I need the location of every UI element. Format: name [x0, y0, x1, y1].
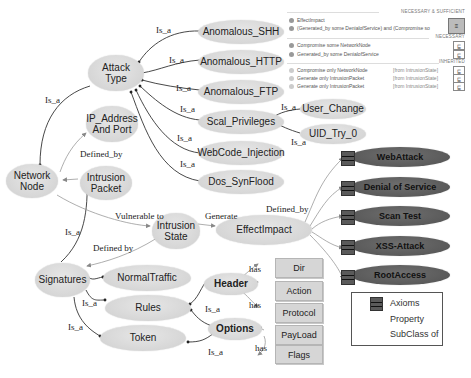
node-user-change[interactable]: User_Change [300, 99, 366, 119]
edge-label-is-a: Is_a [208, 347, 223, 357]
subclass-button[interactable]: ⊑ [453, 41, 465, 50]
edge-label-is-a: Is_a [180, 159, 195, 169]
node-signatures[interactable]: Signatures [35, 263, 90, 297]
edge-label-has: has [249, 300, 261, 310]
subclass-button[interactable]: ⊑ [453, 50, 465, 59]
divider [287, 63, 439, 64]
node-anomalous-ftp[interactable]: Anomalous_FTP [198, 80, 284, 104]
legend-property-label: Property [390, 314, 424, 324]
node-network-node[interactable]: Network Node [6, 164, 58, 198]
node-action[interactable]: Action [275, 281, 323, 301]
node-dos-synflood[interactable]: Dos_SynFlood [198, 170, 284, 194]
axiom-bullet-icon [289, 18, 294, 23]
edge-label-is-a: Is_a [205, 304, 220, 314]
node-denial-of-service[interactable]: Denial of Service [350, 177, 450, 197]
edge-label-is-a: Is_a [291, 137, 306, 147]
legend-subclass-label: SubClass of [390, 329, 439, 339]
node-token[interactable]: Token [100, 325, 186, 351]
legend-axioms-label: Axioms [390, 298, 420, 308]
equivalent-class-button[interactable]: ≡ [448, 18, 465, 34]
node-scan-test[interactable]: Scan Test [350, 206, 450, 226]
axioms-legend-icon [370, 297, 383, 311]
edge-label-is-a: Is_a [156, 25, 171, 35]
node-flags[interactable]: Flags [275, 345, 323, 364]
axiom-row[interactable]: EffectImpact [289, 17, 325, 23]
node-web-attack[interactable]: WebAttack [350, 147, 450, 167]
axiom-icon [341, 151, 355, 166]
node-webcode-injection[interactable]: WebCode_Injection [198, 141, 284, 165]
node-anomalous-shh[interactable]: Anomalous_SHH [198, 20, 284, 44]
edge-label-has: has [249, 264, 261, 274]
edge-label-is-a: Is_a [177, 133, 192, 143]
ontology-diagram: NECESSARY & SUFFICIENT EffectImpact (Gen… [0, 0, 471, 378]
edge-label-is-a: Is_a [169, 55, 184, 65]
edge-label-vulnerable-to: Vulnerable to [115, 211, 164, 221]
axiom-bullet-icon [289, 43, 294, 48]
axiom-row[interactable]: Compromise some NetworkNode [289, 42, 371, 48]
node-options[interactable]: Options [208, 318, 262, 340]
edge-label-is-a: Is_a [68, 322, 83, 332]
axiom-row[interactable]: Generate only IntrusionPacket [289, 75, 364, 81]
inherited-source: [from IntrusionState] [393, 67, 438, 73]
node-dir[interactable]: Dir [275, 258, 323, 278]
divider [287, 12, 379, 13]
axiom-icon [341, 240, 355, 255]
node-attack-type[interactable]: Attack Type [88, 55, 144, 91]
node-payload[interactable]: PayLoad [275, 325, 323, 345]
edge-label-is-a: Is_a [281, 102, 296, 112]
node-intrusion-packet[interactable]: Intrusion Packet [80, 166, 132, 200]
edge-label-defined-by: Defined_by [80, 149, 123, 159]
edge-label-has: has [255, 343, 267, 353]
axiom-panel: NECESSARY & SUFFICIENT EffectImpact (Gen… [283, 8, 469, 100]
node-xss-attack[interactable]: XSS-Attack [350, 236, 450, 256]
node-scal-privileges[interactable]: Scal_Privileges [198, 110, 284, 134]
edge-label-generate: Generate [205, 211, 237, 221]
divider [287, 38, 429, 39]
edge-label-is-a: Is_a [176, 83, 191, 93]
header-necessary: NECESSARY [436, 34, 465, 39]
axiom-row[interactable]: Generate only IntrusionPacket [289, 83, 364, 89]
node-anomalous-http[interactable]: Anomalous_HTTP [198, 50, 284, 74]
axiom-bullet-icon [289, 52, 294, 57]
edge-label-is-a: Is_a [65, 227, 80, 237]
header-necessary-sufficient: NECESSARY & SUFFICIENT [401, 9, 465, 14]
edge-label-is-a: Is_a [180, 104, 195, 114]
header-inherited: INHERITED [439, 59, 465, 64]
axiom-row[interactable]: Generated_by some DenialofService [289, 51, 379, 57]
node-normal-traffic[interactable]: NormalTraffic [103, 265, 191, 291]
edge-label-defined-by: Defined by [93, 243, 133, 253]
axiom-bullet-icon [289, 68, 294, 73]
axiom-bullet-icon [289, 26, 294, 31]
node-protocol[interactable]: Protocol [275, 303, 323, 323]
axiom-bullet-icon [289, 76, 294, 81]
legend: Axioms Property SubClass of [351, 292, 443, 346]
axiom-icon [341, 270, 355, 285]
edge-label-is-a: Is_a [82, 298, 97, 308]
edge-label-is-a: Is_a [45, 95, 60, 105]
subclass-button[interactable]: ⊑ [453, 82, 465, 91]
node-root-access[interactable]: RootAccess [350, 265, 450, 285]
axiom-icon [341, 210, 355, 225]
node-rules[interactable]: Rules [105, 295, 191, 321]
edge-label-defined-by: Defined_by [266, 204, 309, 214]
node-uid-try-0[interactable]: UID_Try_0 [300, 124, 366, 144]
node-ip-address-and-port[interactable]: IP_Address And Port [86, 106, 138, 142]
axiom-icon [341, 181, 355, 196]
node-header[interactable]: Header [204, 273, 258, 295]
inherited-source: [from IntrusionState] [393, 75, 438, 81]
inherited-source: [from IntrusionState] [393, 83, 438, 89]
axiom-row[interactable]: (Generated_by some DenialofService) and … [289, 25, 430, 31]
axiom-row[interactable]: Compromise only NetworkNode [289, 67, 368, 73]
axiom-bullet-icon [289, 84, 294, 89]
